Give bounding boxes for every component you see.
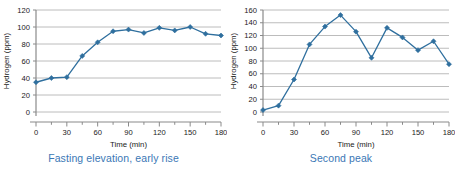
x-axis-left — [30, 122, 221, 127]
y-tick-label: 120 — [244, 31, 257, 40]
series-line — [36, 27, 221, 82]
x-tick-label: 60 — [93, 128, 101, 137]
x-tick-label: 120 — [381, 128, 394, 137]
chart-panel-left: 020406080100120 0306090120150180 Time (m… — [0, 0, 227, 179]
x-axis-right — [257, 122, 449, 127]
x-tick-label: 180 — [215, 128, 227, 137]
data-point-marker — [219, 33, 224, 38]
panel-caption-left: Fasting elevation, early rise — [0, 152, 227, 164]
gridlines-right — [263, 10, 449, 112]
data-point-marker — [203, 31, 208, 36]
x-tick-label: 60 — [321, 128, 329, 137]
y-axis-title-right: Hydrogen (ppm) — [229, 32, 238, 89]
figure-row: 020406080100120 0306090120150180 Time (m… — [0, 0, 455, 179]
chart-panel-right: 020406080100120140160 0306090120150180 T… — [227, 0, 455, 179]
data-series-right — [261, 13, 452, 113]
y-tick-label: 80 — [22, 40, 30, 49]
chart-area-left: 020406080100120 0306090120150180 Time (m… — [0, 0, 227, 150]
y-tick-label: 20 — [22, 91, 30, 100]
x-tick-label: 150 — [184, 128, 197, 137]
data-point-marker — [188, 25, 193, 30]
x-tick-labels-left: 0306090120150180 — [34, 128, 227, 137]
x-axis-title-left: Time (min) — [110, 140, 147, 149]
y-tick-label: 0 — [253, 108, 257, 117]
x-tick-label: 120 — [153, 128, 166, 137]
data-point-marker — [157, 25, 162, 30]
x-tick-label: 0 — [261, 128, 265, 137]
y-tick-label: 80 — [249, 57, 257, 66]
y-tick-label: 20 — [249, 95, 257, 104]
y-tick-label: 140 — [244, 18, 257, 27]
data-point-marker — [141, 30, 146, 35]
data-point-marker — [49, 76, 54, 81]
line-chart-right: 020406080100120140160 0306090120150180 T… — [227, 0, 455, 150]
x-tick-label: 30 — [63, 128, 71, 137]
y-tick-label: 40 — [249, 82, 257, 91]
x-tick-label: 30 — [290, 128, 298, 137]
x-tick-label: 150 — [412, 128, 425, 137]
y-tick-labels-left: 020406080100120 — [17, 6, 30, 117]
data-series-left — [34, 25, 224, 85]
x-tick-label: 90 — [124, 128, 132, 137]
x-tick-labels-right: 0306090120150180 — [261, 128, 455, 137]
x-tick-label: 90 — [352, 128, 360, 137]
y-tick-label: 100 — [17, 23, 30, 32]
y-tick-label: 120 — [17, 6, 30, 15]
y-axis-title-left: Hydrogen (ppm) — [2, 32, 11, 89]
y-tick-label: 100 — [244, 44, 257, 53]
gridlines-left — [36, 10, 221, 112]
y-axis-right — [260, 10, 263, 116]
data-point-marker — [126, 27, 131, 32]
y-tick-label: 60 — [22, 57, 30, 66]
data-point-marker — [34, 80, 39, 85]
panel-caption-right: Second peak — [227, 152, 455, 164]
x-axis-title-right: Time (min) — [338, 140, 375, 149]
x-tick-label: 180 — [443, 128, 455, 137]
y-tick-label: 160 — [244, 6, 257, 15]
x-tick-label: 0 — [34, 128, 38, 137]
y-tick-labels-right: 020406080100120140160 — [244, 6, 257, 117]
line-chart-left: 020406080100120 0306090120150180 Time (m… — [0, 0, 227, 150]
y-tick-label: 40 — [22, 74, 30, 83]
y-axis-left — [33, 10, 36, 116]
data-point-marker — [172, 28, 177, 33]
y-tick-label: 0 — [26, 108, 30, 117]
y-tick-label: 60 — [249, 69, 257, 78]
chart-area-right: 020406080100120140160 0306090120150180 T… — [227, 0, 455, 150]
